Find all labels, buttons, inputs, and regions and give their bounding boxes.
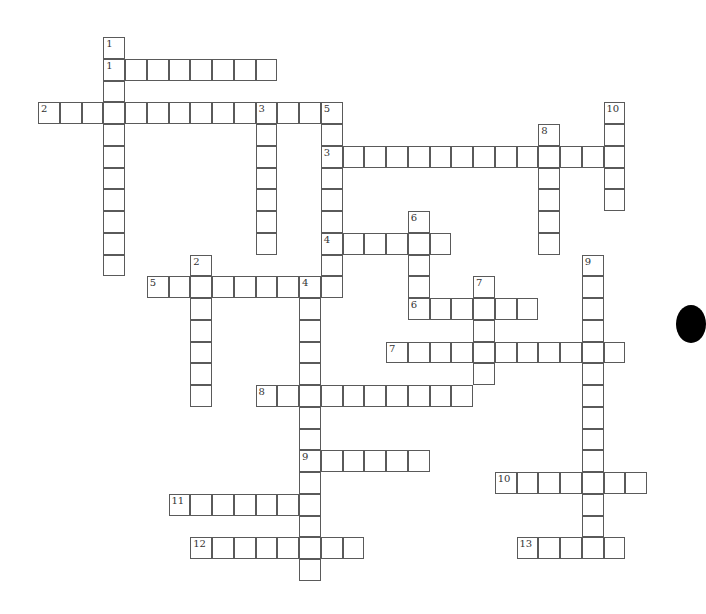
- crossword-cell[interactable]: [473, 363, 495, 385]
- crossword-cell[interactable]: [147, 102, 169, 124]
- crossword-cell[interactable]: [299, 537, 321, 559]
- crossword-cell[interactable]: [364, 146, 386, 168]
- crossword-cell[interactable]: [473, 146, 495, 168]
- crossword-cell[interactable]: [343, 146, 365, 168]
- crossword-cell[interactable]: 8: [538, 124, 560, 146]
- crossword-cell[interactable]: 2: [190, 255, 212, 277]
- crossword-cell[interactable]: [321, 189, 343, 211]
- crossword-cell[interactable]: [169, 59, 191, 81]
- crossword-cell[interactable]: [343, 385, 365, 407]
- crossword-cell[interactable]: 1: [103, 37, 125, 59]
- crossword-cell[interactable]: [234, 537, 256, 559]
- crossword-cell[interactable]: [604, 189, 626, 211]
- crossword-cell[interactable]: [103, 146, 125, 168]
- crossword-cell[interactable]: [582, 276, 604, 298]
- crossword-cell[interactable]: [234, 102, 256, 124]
- crossword-cell[interactable]: 10: [495, 472, 517, 494]
- crossword-cell[interactable]: [538, 342, 560, 364]
- crossword-cell[interactable]: [190, 320, 212, 342]
- crossword-cell[interactable]: [212, 102, 234, 124]
- crossword-cell[interactable]: 5: [147, 276, 169, 298]
- crossword-cell[interactable]: [451, 298, 473, 320]
- crossword-cell[interactable]: 12: [190, 537, 212, 559]
- crossword-cell[interactable]: [560, 342, 582, 364]
- crossword-cell[interactable]: [212, 537, 234, 559]
- crossword-cell[interactable]: [256, 124, 278, 146]
- crossword-cell[interactable]: [364, 385, 386, 407]
- crossword-cell[interactable]: [473, 320, 495, 342]
- crossword-cell[interactable]: [190, 494, 212, 516]
- crossword-cell[interactable]: [408, 342, 430, 364]
- crossword-cell[interactable]: [582, 472, 604, 494]
- crossword-cell[interactable]: [582, 537, 604, 559]
- crossword-cell[interactable]: [125, 102, 147, 124]
- crossword-cell[interactable]: [517, 298, 539, 320]
- crossword-cell[interactable]: [582, 407, 604, 429]
- crossword-cell[interactable]: [299, 559, 321, 581]
- crossword-cell[interactable]: [256, 276, 278, 298]
- crossword-cell[interactable]: [299, 407, 321, 429]
- crossword-cell[interactable]: [277, 385, 299, 407]
- crossword-cell[interactable]: 4: [299, 276, 321, 298]
- crossword-cell[interactable]: [234, 59, 256, 81]
- crossword-cell[interactable]: 7: [473, 276, 495, 298]
- crossword-cell[interactable]: [321, 255, 343, 277]
- crossword-cell[interactable]: [321, 450, 343, 472]
- crossword-cell[interactable]: [538, 472, 560, 494]
- crossword-cell[interactable]: 9: [582, 255, 604, 277]
- crossword-cell[interactable]: [582, 450, 604, 472]
- crossword-cell[interactable]: [190, 342, 212, 364]
- crossword-cell[interactable]: [430, 298, 452, 320]
- crossword-cell[interactable]: [212, 276, 234, 298]
- crossword-cell[interactable]: [190, 59, 212, 81]
- crossword-cell[interactable]: [125, 59, 147, 81]
- crossword-cell[interactable]: [430, 233, 452, 255]
- crossword-cell[interactable]: [103, 255, 125, 277]
- crossword-cell[interactable]: [103, 81, 125, 103]
- crossword-cell[interactable]: [604, 342, 626, 364]
- crossword-cell[interactable]: [190, 298, 212, 320]
- crossword-cell[interactable]: [386, 233, 408, 255]
- crossword-cell[interactable]: [299, 385, 321, 407]
- crossword-cell[interactable]: [604, 124, 626, 146]
- crossword-cell[interactable]: [147, 59, 169, 81]
- crossword-cell[interactable]: 5: [321, 102, 343, 124]
- crossword-cell[interactable]: [256, 59, 278, 81]
- crossword-cell[interactable]: [604, 537, 626, 559]
- crossword-cell[interactable]: [321, 385, 343, 407]
- crossword-cell[interactable]: 3: [256, 102, 278, 124]
- crossword-cell[interactable]: [538, 211, 560, 233]
- crossword-cell[interactable]: [256, 537, 278, 559]
- crossword-cell[interactable]: [538, 146, 560, 168]
- crossword-cell[interactable]: [299, 494, 321, 516]
- crossword-cell[interactable]: [277, 494, 299, 516]
- crossword-cell[interactable]: [473, 342, 495, 364]
- crossword-cell[interactable]: [190, 385, 212, 407]
- crossword-cell[interactable]: [495, 298, 517, 320]
- crossword-cell[interactable]: [430, 342, 452, 364]
- crossword-cell[interactable]: [343, 537, 365, 559]
- crossword-cell[interactable]: [408, 233, 430, 255]
- crossword-cell[interactable]: [103, 102, 125, 124]
- crossword-cell[interactable]: [190, 102, 212, 124]
- crossword-cell[interactable]: 3: [321, 146, 343, 168]
- crossword-cell[interactable]: [299, 102, 321, 124]
- crossword-cell[interactable]: [430, 146, 452, 168]
- crossword-cell[interactable]: [212, 494, 234, 516]
- crossword-cell[interactable]: [560, 537, 582, 559]
- crossword-cell[interactable]: 6: [408, 298, 430, 320]
- crossword-cell[interactable]: [256, 146, 278, 168]
- crossword-cell[interactable]: [408, 146, 430, 168]
- crossword-cell[interactable]: [299, 363, 321, 385]
- crossword-cell[interactable]: [451, 146, 473, 168]
- crossword-cell[interactable]: [386, 385, 408, 407]
- crossword-cell[interactable]: [364, 233, 386, 255]
- crossword-cell[interactable]: [256, 168, 278, 190]
- crossword-cell[interactable]: [321, 124, 343, 146]
- crossword-cell[interactable]: [256, 211, 278, 233]
- crossword-cell[interactable]: [538, 168, 560, 190]
- crossword-cell[interactable]: [169, 276, 191, 298]
- crossword-cell[interactable]: [582, 363, 604, 385]
- crossword-cell[interactable]: [582, 146, 604, 168]
- crossword-cell[interactable]: 9: [299, 450, 321, 472]
